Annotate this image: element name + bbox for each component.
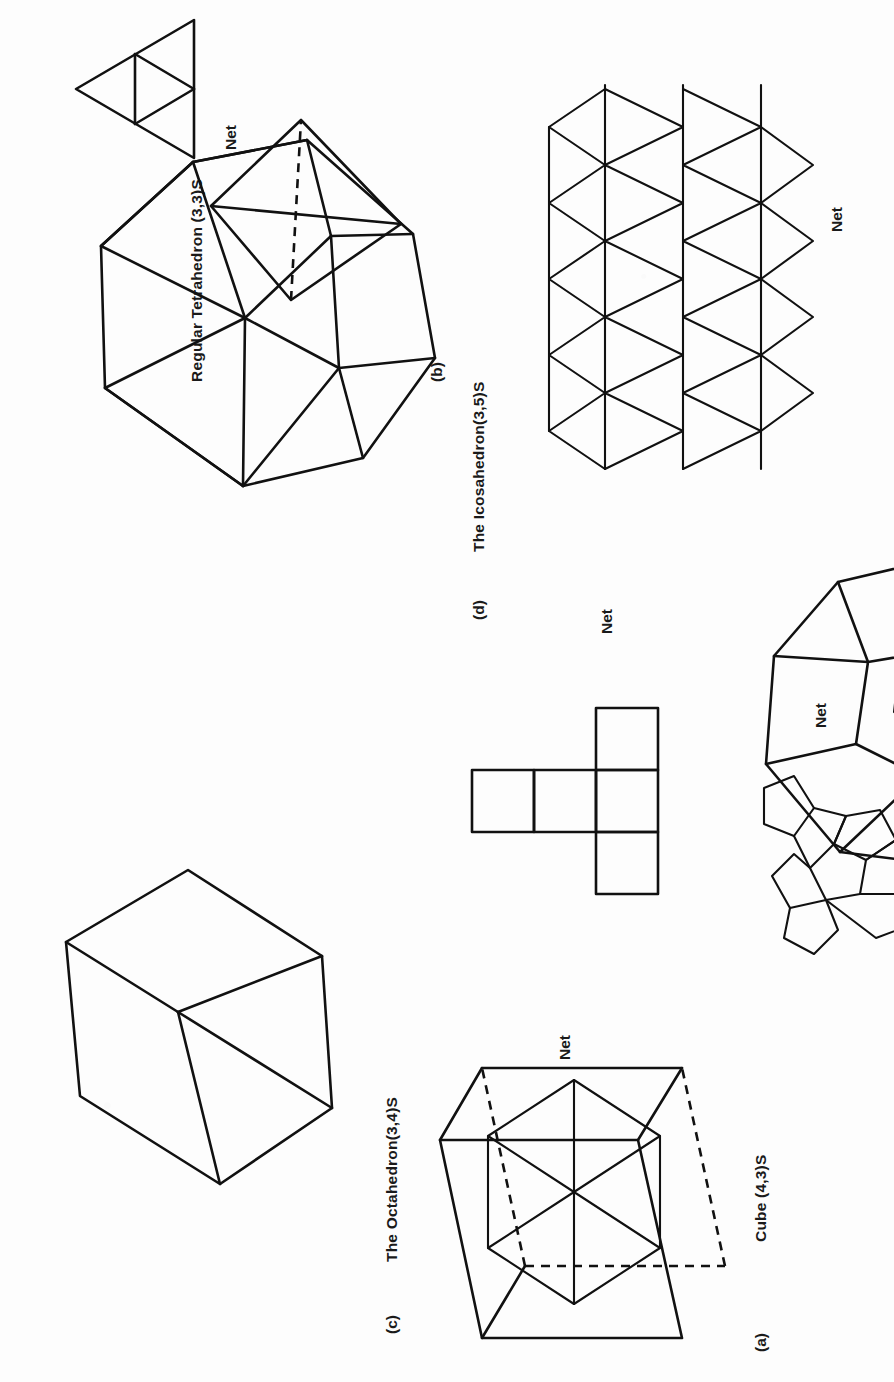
panel-marker-a: (a) [752, 1333, 770, 1352]
octahedron-drawing [60, 862, 350, 1192]
caption-icosahedron-text: The Icosahedron(3,5) [470, 392, 487, 552]
caption-cube-text: Cube (4,3) [752, 1165, 769, 1242]
panel-marker-c: (c) [383, 1315, 401, 1334]
caption-icosahedron: The Icosahedron(3,5)S [470, 382, 488, 552]
panel-icosahedron-solid [95, 132, 445, 492]
net-label-octahedron: Net [556, 1035, 574, 1060]
panel-icosahedron-net [545, 77, 815, 477]
panel-octahedron-solid [60, 862, 350, 1192]
panel-marker-d: (d) [470, 600, 488, 620]
caption-icosahedron-suffix: S [470, 382, 487, 393]
caption-cube: Cube (4,3)S [752, 1155, 770, 1242]
caption-octahedron-suffix: S [383, 1097, 400, 1108]
panel-cube-net [470, 652, 690, 902]
figure-stage: Cube (4,3)S (a) Net Regula [0, 0, 894, 1382]
caption-octahedron-text: The Octahedron(3,4) [383, 1107, 400, 1262]
cube-net-drawing [470, 652, 690, 902]
icosahedron-drawing [95, 132, 445, 492]
panel-octahedron-net [470, 1022, 680, 1322]
caption-cube-suffix: S [752, 1155, 769, 1166]
octahedron-net-drawing [470, 1022, 680, 1322]
panel-octahedron-net-spacer [8, 1002, 68, 1302]
net-label-dodecahedron: Net [812, 703, 830, 728]
net-label-cube: Net [598, 609, 616, 634]
icosahedron-net-drawing [545, 77, 815, 477]
net-label-icosahedron: Net [828, 207, 846, 232]
figure-page: Cube (4,3)S (a) Net Regula [0, 0, 894, 1382]
caption-octahedron: The Octahedron(3,4)S [383, 1097, 401, 1262]
